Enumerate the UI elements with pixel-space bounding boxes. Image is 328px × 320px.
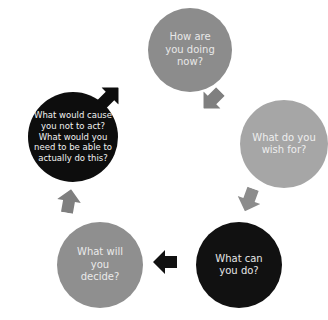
arrow-down-left-icon: [234, 185, 265, 216]
arrow-left-icon: [153, 250, 177, 274]
node-label: What would cause you not to act? What wo…: [32, 110, 114, 163]
arrow-up-icon: [55, 187, 83, 215]
cycle-node-what-will-you-decide: What will you decide?: [57, 222, 143, 308]
node-label: How are you doing now?: [154, 31, 226, 69]
node-label: What will you decide?: [63, 246, 137, 284]
node-label: What do you wish for?: [246, 132, 322, 157]
cycle-node-how-are-you-doing: How are you doing now?: [148, 8, 232, 92]
node-label: What can you do?: [202, 253, 276, 278]
cycle-node-what-can-you-do: What can you do?: [196, 222, 282, 308]
cycle-node-what-do-you-wish: What do you wish for?: [240, 100, 328, 188]
